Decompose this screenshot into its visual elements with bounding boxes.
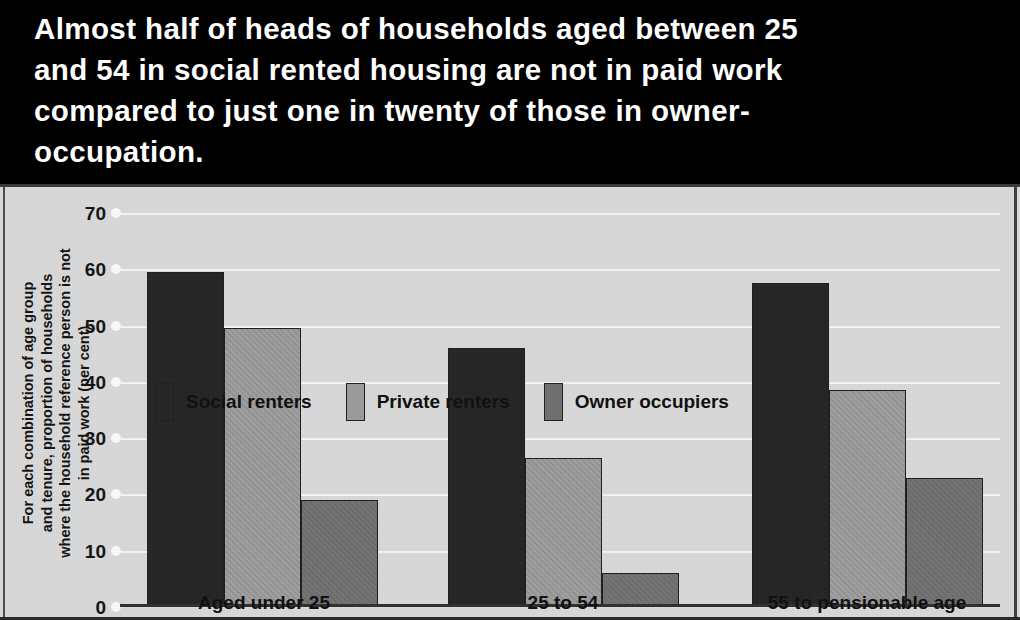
legend-swatch-icon-owner-occupiers	[544, 383, 563, 421]
bar-0-1	[224, 328, 301, 607]
y-axis-tick-label-0: 0	[95, 598, 106, 617]
tick-dot-30	[111, 433, 121, 443]
y-axis-tick-label-70: 70	[85, 204, 106, 223]
tick-dot-10	[111, 546, 121, 556]
gridline-70	[120, 213, 1000, 215]
tick-dot-20	[111, 489, 121, 499]
chart-figure: Almost half of heads of households aged …	[0, 0, 1020, 620]
headline-line-2: and 54 in social rented housing are not …	[34, 49, 986, 90]
chart-panel: For each combination of age group and te…	[0, 184, 1020, 620]
headline-banner: Almost half of heads of households aged …	[0, 0, 1020, 184]
tick-dot-60	[111, 264, 121, 274]
x-axis-category-label-1: 25 to 54	[528, 592, 599, 614]
headline-line-1: Almost half of heads of households aged …	[34, 8, 986, 49]
y-axis-title-line-2: and tenure, proportion of households	[38, 205, 57, 601]
legend-label-social-renters: Social renters	[186, 391, 312, 413]
gridline-60	[120, 269, 1000, 271]
tick-dot-50	[111, 321, 121, 331]
bar-1-1	[525, 458, 602, 607]
gridline-50	[120, 326, 1000, 328]
legend-item-private-renters: Private renters	[346, 383, 510, 421]
chart-legend: Social renters Private renters Owner occ…	[155, 383, 729, 421]
bar-0-2	[301, 500, 378, 607]
legend-item-social-renters: Social renters	[155, 383, 312, 421]
y-axis-tick-label-50: 50	[85, 316, 106, 335]
tick-dot-40	[111, 377, 121, 387]
legend-swatch-icon-social-renters	[155, 383, 174, 421]
legend-item-owner-occupiers: Owner occupiers	[544, 383, 729, 421]
headline-line-4: occupation.	[34, 131, 986, 172]
bar-0-0	[147, 272, 224, 607]
x-axis-category-label-0: Aged under 25	[198, 592, 330, 614]
bar-1-2	[602, 573, 679, 607]
bar-2-1	[829, 390, 906, 607]
legend-label-owner-occupiers: Owner occupiers	[575, 391, 729, 413]
x-axis-category-label-2: 55 to pensionable age	[768, 592, 967, 614]
headline-line-3: compared to just one in twenty of those …	[34, 90, 986, 131]
y-axis-tick-label-30: 30	[85, 429, 106, 448]
y-axis-tick-label-10: 10	[85, 541, 106, 560]
tick-dot-70	[111, 208, 121, 218]
legend-swatch-icon-private-renters	[346, 383, 365, 421]
y-axis-tick-label-60: 60	[85, 260, 106, 279]
y-axis-title-line-1: For each combination of age group	[19, 205, 38, 601]
bar-2-0	[752, 283, 829, 607]
y-axis-tick-label-20: 20	[85, 485, 106, 504]
y-axis-tick-label-40: 40	[85, 372, 106, 391]
legend-label-private-renters: Private renters	[377, 391, 510, 413]
bar-2-2	[906, 478, 983, 607]
y-axis-title-line-3: where the household reference person is …	[56, 205, 75, 601]
